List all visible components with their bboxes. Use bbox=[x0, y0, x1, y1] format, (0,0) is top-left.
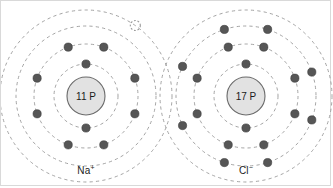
electron-shell2-7 bbox=[291, 110, 299, 118]
figure-frame: 11 P17 P Na+ Cl− bbox=[0, 0, 331, 186]
electron-shell3-1 bbox=[220, 25, 228, 33]
electron-shell3-2 bbox=[264, 25, 272, 33]
ion-charge: − bbox=[249, 164, 253, 171]
electron-shell2-4 bbox=[33, 110, 41, 118]
electron-shell2-5 bbox=[224, 141, 232, 149]
electron-shell2-6 bbox=[260, 141, 268, 149]
electron-shell2-1 bbox=[224, 43, 232, 51]
electron-shell1-2 bbox=[242, 124, 250, 132]
electron-shell2-3 bbox=[193, 74, 201, 82]
electron-shell2-8 bbox=[291, 74, 299, 82]
electron-shell2-2 bbox=[100, 43, 108, 51]
electron-shell2-5 bbox=[64, 141, 72, 149]
electron-shell1-1 bbox=[82, 60, 90, 68]
electron-shell2-3 bbox=[33, 74, 41, 82]
electron-shell2-2 bbox=[260, 43, 268, 51]
electron-shell2-4 bbox=[193, 110, 201, 118]
electron-shell2-7 bbox=[131, 110, 139, 118]
nucleus-proton-label: 11 P bbox=[76, 91, 96, 102]
electron-shell3-5 bbox=[220, 158, 228, 166]
electron-shell3-4 bbox=[178, 121, 186, 129]
electron-shell2-1 bbox=[64, 43, 72, 51]
electron-shell3-8 bbox=[308, 68, 316, 76]
electron-shell2-8 bbox=[131, 74, 139, 82]
nucleus-layer: 11 P17 P bbox=[67, 77, 265, 115]
electron-shell3-7 bbox=[308, 116, 316, 124]
ion-label-sodium: Na+ bbox=[77, 165, 94, 176]
electron-shell2-6 bbox=[100, 141, 108, 149]
electron-shell1-2 bbox=[82, 124, 90, 132]
electron-shell-layer bbox=[1, 10, 332, 182]
nucleus-proton-label: 17 P bbox=[236, 91, 257, 102]
ion-symbol: Na bbox=[77, 165, 90, 176]
electron-shell3-6 bbox=[264, 158, 272, 166]
ion-charge: + bbox=[90, 164, 94, 171]
electron-shell3-3 bbox=[178, 62, 186, 70]
ion-diagram-canvas: 11 P17 P bbox=[1, 1, 333, 188]
electron-shell1-1 bbox=[242, 60, 250, 68]
ion-label-chloride: Cl− bbox=[239, 165, 253, 176]
ion-symbol: Cl bbox=[239, 165, 249, 176]
